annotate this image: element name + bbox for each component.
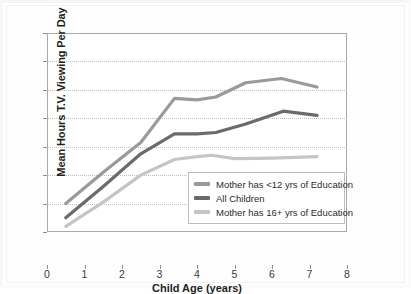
legend-swatch-icon-0: [194, 182, 210, 186]
x-tick-label-5: 5: [225, 268, 245, 280]
x-tick-label-6: 6: [262, 268, 282, 280]
x-tick-label-7: 7: [300, 268, 320, 280]
legend-swatch-icon-1: [194, 196, 210, 200]
x-tick-label-4: 4: [187, 268, 207, 280]
legend-label-0: Mother has <12 yrs of Education: [216, 179, 353, 190]
x-tick-label-8: 8: [337, 268, 357, 280]
y-tick-mark-0: [43, 232, 47, 233]
legend-item-2: Mother has 16+ yrs of Education: [194, 205, 339, 219]
x-axis-title: Child Age (years): [47, 282, 347, 294]
x-tick-label-3: 3: [150, 268, 170, 280]
plot-area: 01234567 012345678 Mean Hours T.V. Viewi…: [47, 33, 347, 232]
y-axis-title: Mean Hours T.V. Viewing Per Day: [55, 0, 67, 197]
legend-label-2: Mother has 16+ yrs of Education: [216, 207, 353, 218]
x-tick-label-1: 1: [75, 268, 95, 280]
legend-label-1: All Children: [216, 193, 265, 204]
legend-swatch-icon-2: [194, 210, 210, 214]
chart-legend: Mother has <12 yrs of EducationAll Child…: [188, 172, 345, 224]
x-tick-label-0: 0: [37, 268, 57, 280]
legend-item-0: Mother has <12 yrs of Education: [194, 177, 339, 191]
legend-item-1: All Children: [194, 191, 339, 205]
x-tick-label-2: 2: [112, 268, 132, 280]
